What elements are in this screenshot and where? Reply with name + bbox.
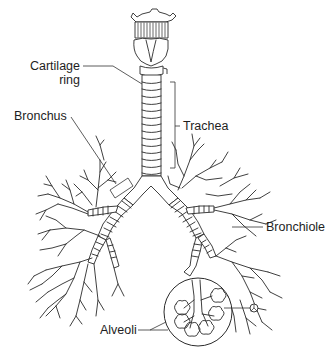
label-cartilage-ring: Cartilage ring xyxy=(22,59,80,87)
left-bronchial-tree xyxy=(28,136,133,326)
label-alveoli: Alveoli xyxy=(100,323,137,337)
label-alveoli-text: Alveoli xyxy=(100,323,137,337)
label-bronchiole: Bronchiole xyxy=(266,220,325,234)
label-cartilage-ring-line2: ring xyxy=(22,73,80,87)
trachea xyxy=(124,75,178,205)
larynx xyxy=(131,9,176,76)
label-bronchiole-text: Bronchiole xyxy=(266,220,325,234)
label-trachea: Trachea xyxy=(183,119,228,133)
label-bronchus-text: Bronchus xyxy=(14,109,67,123)
label-cartilage-ring-line1: Cartilage xyxy=(22,59,80,73)
label-trachea-text: Trachea xyxy=(183,119,228,133)
label-bronchus: Bronchus xyxy=(14,109,67,123)
respiratory-diagram: Cartilage ring Bronchus Trachea Bronchio… xyxy=(0,0,331,351)
